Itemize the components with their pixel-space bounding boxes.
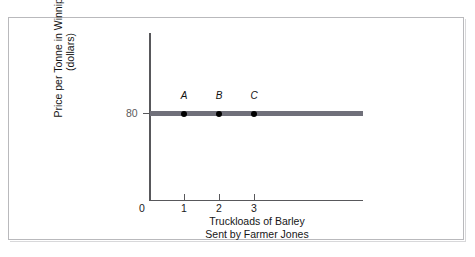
- y-axis-tick-label-80: 80: [126, 107, 138, 119]
- x-axis-tick-label-1: 1: [181, 202, 187, 214]
- y-axis-line: [149, 33, 151, 201]
- x-axis-line: [149, 200, 363, 202]
- x-axis-tick-2: [219, 194, 220, 200]
- origin-label: 0: [139, 202, 145, 214]
- data-point-label-a: A: [181, 90, 188, 101]
- y-axis-title-line1: Price per Tonne in Winnipeg: [52, 0, 64, 132]
- chart-figure: Price per Tonne in Winnipeg (dollars) 80…: [0, 0, 475, 257]
- data-point-label-b: B: [216, 90, 223, 101]
- x-axis-tick-label-3: 3: [251, 202, 257, 214]
- y-axis-title-line2: (dollars): [64, 0, 76, 132]
- x-axis-tick-3: [254, 194, 255, 200]
- x-axis-title: Truckloads of Barley Sent by Farmer Jone…: [150, 215, 364, 240]
- figure-border: [8, 17, 464, 240]
- y-axis-tick-80: [143, 113, 150, 114]
- x-axis-tick-1: [184, 194, 185, 200]
- x-axis-tick-label-2: 2: [216, 202, 222, 214]
- y-axis-title: Price per Tonne in Winnipeg (dollars): [52, 0, 76, 132]
- data-point-a: [181, 111, 187, 117]
- data-point-label-c: C: [250, 90, 257, 101]
- x-axis-title-line1: Truckloads of Barley: [150, 215, 364, 228]
- data-point-b: [216, 111, 222, 117]
- data-point-c: [251, 111, 257, 117]
- x-axis-title-line2: Sent by Farmer Jones: [150, 228, 364, 241]
